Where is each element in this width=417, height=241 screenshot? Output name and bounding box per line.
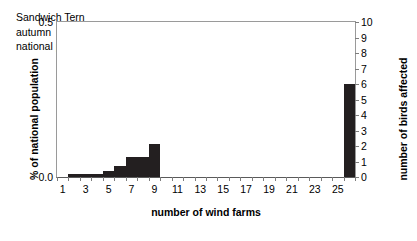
x-axis-tick-label: 11: [172, 184, 183, 195]
x-axis-tick-label: 5: [106, 184, 112, 195]
bar: [344, 84, 355, 177]
x-axis-tick: [206, 177, 207, 181]
x-axis-tick: [80, 177, 81, 181]
y-axis-right-tick: [355, 53, 359, 54]
x-axis-tick-label: 17: [240, 184, 252, 195]
x-axis-title: number of wind farms: [56, 206, 356, 218]
y-axis-right-tick-label: 8: [361, 48, 367, 59]
bar: [126, 157, 137, 177]
y-axis-right-tick: [355, 84, 359, 85]
x-axis-tick: [275, 177, 276, 181]
y-axis-right-tick-label: 7: [361, 63, 367, 74]
x-axis-tick: [263, 177, 264, 181]
y-axis-right-tick: [355, 38, 359, 39]
bar: [149, 144, 160, 177]
x-axis-tick: [149, 177, 150, 181]
x-axis-tick-label: 13: [194, 184, 206, 195]
x-axis-tick: [68, 177, 69, 181]
y-axis-right-tick: [355, 162, 359, 163]
x-axis-tick-label: 9: [152, 184, 158, 195]
y-axis-right-title: number of birds affected: [397, 34, 409, 204]
y-axis-right-tick-label: 0: [361, 172, 367, 183]
x-axis-tick: [195, 177, 196, 181]
x-axis-tick: [91, 177, 92, 181]
x-axis-tick: [286, 177, 287, 181]
y-axis-right-tick: [355, 115, 359, 116]
x-axis-tick-label: 19: [263, 184, 275, 195]
x-axis-tick-label: 25: [332, 184, 344, 195]
y-axis-right-tick: [355, 22, 359, 23]
x-axis-tick: [103, 177, 104, 181]
y-axis-right-tick: [355, 146, 359, 147]
y-axis-right-tick-label: 6: [361, 79, 367, 90]
x-axis-tick-label: 15: [217, 184, 229, 195]
y-axis-right-tick-label: 1: [361, 156, 367, 167]
x-axis-tick: [114, 177, 115, 181]
y-axis-right-tick-label: 3: [361, 125, 367, 136]
x-axis-tick: [126, 177, 127, 181]
bar: [103, 171, 114, 177]
bar: [91, 174, 102, 177]
bar: [68, 174, 79, 177]
x-axis-tick: [57, 177, 58, 181]
x-axis-tick: [298, 177, 299, 181]
y-axis-left-tick-label: 0.0: [38, 172, 53, 183]
x-axis-tick: [332, 177, 333, 181]
x-axis-tick-label: 7: [129, 184, 135, 195]
x-axis-tick-label: 21: [286, 184, 298, 195]
bar: [80, 174, 91, 177]
x-axis-tick-label: 1: [60, 184, 66, 195]
y-axis-right-tick: [355, 131, 359, 132]
y-axis-right-tick-label: 9: [361, 32, 367, 43]
x-axis-tick-label: 3: [83, 184, 89, 195]
y-axis-right-tick-label: 2: [361, 141, 367, 152]
x-axis-tick: [183, 177, 184, 181]
bar: [137, 157, 148, 177]
y-axis-right-tick-label: 5: [361, 94, 367, 105]
x-axis-tick: [321, 177, 322, 181]
y-axis-right-tick: [355, 69, 359, 70]
x-axis-tick: [240, 177, 241, 181]
x-axis-tick: [172, 177, 173, 181]
y-axis-right-tick-label: 10: [361, 17, 373, 28]
x-axis-tick: [355, 177, 356, 181]
bar: [114, 166, 125, 177]
y-axis-right-tick: [355, 100, 359, 101]
x-axis-tick-label: 23: [309, 184, 321, 195]
bar-series: [57, 22, 355, 177]
x-axis-tick: [217, 177, 218, 181]
x-axis-tick: [229, 177, 230, 181]
x-axis-tick: [252, 177, 253, 181]
x-axis-tick: [309, 177, 310, 181]
x-axis-tick: [344, 177, 345, 181]
x-axis-tick: [137, 177, 138, 181]
plot-area: 0.50.0109876543210135791113151719212325: [56, 21, 356, 178]
y-axis-right-tick-label: 4: [361, 110, 367, 121]
chart-figure: % of national population number of birds…: [0, 0, 417, 241]
x-axis-tick: [160, 177, 161, 181]
y-axis-left-tick-label: 0.5: [38, 17, 53, 28]
